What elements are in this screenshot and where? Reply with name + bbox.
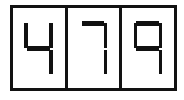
digit-1-segment-b bbox=[49, 23, 52, 48]
digit-2-segment-e bbox=[79, 50, 82, 75]
digit-cell-3 bbox=[119, 8, 174, 88]
digit-3-segment-g bbox=[136, 46, 159, 51]
digit-3-segment-f bbox=[134, 23, 137, 48]
digit-1-segment-d bbox=[27, 72, 50, 77]
digit-1-segment-f bbox=[24, 23, 27, 48]
digit-2-segments bbox=[68, 8, 120, 88]
digit-2-segment-c bbox=[104, 50, 107, 75]
digit-2-segment-b bbox=[104, 23, 107, 48]
digit-3-segment-e bbox=[134, 50, 137, 75]
digit-1-segment-a bbox=[27, 21, 50, 26]
digit-cell-1 bbox=[13, 8, 65, 88]
digit-2-segment-d bbox=[82, 72, 105, 77]
digit-3-segment-a bbox=[136, 21, 159, 26]
digit-cell-2 bbox=[65, 8, 120, 88]
seven-segment-display bbox=[10, 5, 177, 91]
digit-2-segment-g bbox=[82, 46, 105, 51]
digit-2-segment-f bbox=[79, 23, 82, 48]
digit-3-segment-b bbox=[159, 23, 162, 48]
digit-3-segment-c bbox=[159, 50, 162, 75]
digit-3-segment-d bbox=[136, 72, 159, 77]
digit-1-segment-c bbox=[49, 50, 52, 75]
digit-3-segments bbox=[122, 8, 174, 88]
digit-1-segment-e bbox=[24, 50, 27, 75]
digit-1-segment-g bbox=[27, 46, 50, 51]
digit-2-segment-a bbox=[82, 21, 105, 26]
digit-1-segments bbox=[13, 8, 65, 88]
